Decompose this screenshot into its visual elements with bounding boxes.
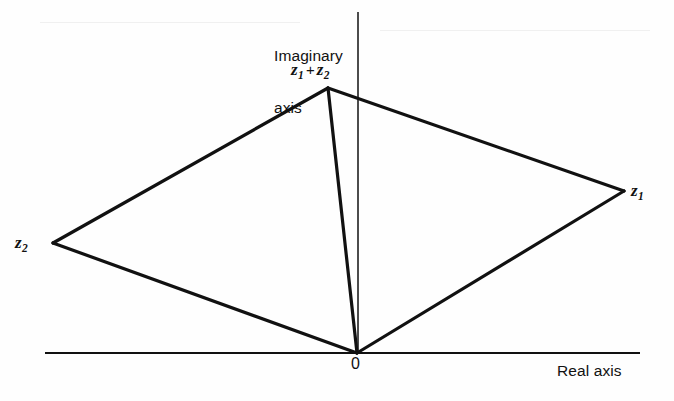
point-label-z1: z1: [631, 181, 644, 203]
z2-subscript: 2: [22, 242, 28, 254]
sum-term2-subscript: 2: [323, 69, 329, 81]
point-label-z1-plus-z2: z1+z2: [291, 60, 330, 82]
z2-base: z: [15, 233, 22, 252]
point-label-z2: z2: [15, 233, 28, 255]
imaginary-axis-label-line2: axis: [274, 99, 343, 116]
sum-term1-base: z: [291, 60, 298, 79]
z1-base: z: [631, 181, 638, 200]
sum-term1-subscript: 1: [298, 69, 304, 81]
sum-operator: +: [304, 61, 317, 78]
z1-subscript: 1: [638, 190, 644, 202]
segment-sum-to-z1: [328, 88, 624, 191]
segment-origin-to-z2: [53, 243, 357, 353]
real-axis-label: Real axis: [557, 362, 622, 379]
complex-plane-figure: Imaginary axis Real axis z1+z2 z1 z2 0: [0, 0, 674, 401]
segment-z1-to-origin: [357, 191, 624, 353]
origin-label: 0: [351, 355, 360, 373]
